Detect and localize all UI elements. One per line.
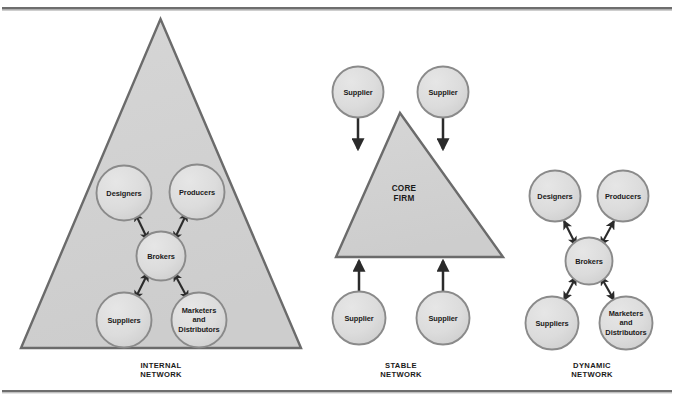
stable-core-firm-label: CORE FIRM — [392, 184, 417, 203]
node-dynamic-brokers-label: Brokers — [575, 257, 603, 266]
node-internal-brokers-label: Brokers — [147, 252, 175, 261]
node-dynamic-suppliers[interactable]: Suppliers — [526, 297, 579, 350]
stable-connections-bottom — [359, 261, 443, 291]
core-firm-label-line1: CORE — [392, 184, 417, 193]
bottom-divider — [2, 390, 672, 393]
panel-dynamic-network: Designers Producers Brokers Suppliers Ma… — [526, 171, 653, 380]
caption-internal-line2: NETWORK — [140, 370, 182, 379]
panel-stable-network: CORE FIRM Supplier Supplier Supplier — [333, 67, 504, 380]
node-stable-supplier-top-right[interactable]: Supplier — [418, 67, 469, 118]
node-internal-marketers-distributors[interactable]: Marketers and Distributors — [172, 293, 227, 348]
node-internal-designers-label: Designers — [106, 189, 141, 198]
node-stable-supplier-bottom-right[interactable]: Supplier — [417, 292, 470, 345]
node-internal-marketers-label-line3: Distributors — [178, 325, 219, 334]
internal-network-triangle — [21, 19, 301, 348]
node-internal-brokers[interactable]: Brokers — [137, 232, 186, 281]
node-dynamic-suppliers-label: Suppliers — [535, 319, 568, 328]
caption-stable-network: STABLE NETWORK — [380, 361, 422, 379]
node-dynamic-producers[interactable]: Producers — [598, 171, 649, 222]
node-dynamic-marketers-label-line1: Marketers — [609, 309, 643, 318]
node-dynamic-marketers-label-line3: Distributors — [605, 328, 646, 337]
node-stable-supplier-top-right-label: Supplier — [428, 88, 457, 97]
node-stable-supplier-top-left-label: Supplier — [343, 88, 372, 97]
node-internal-producers-label: Producers — [179, 188, 215, 197]
caption-internal-line1: INTERNAL — [140, 361, 181, 370]
node-internal-producers[interactable]: Producers — [170, 165, 225, 220]
node-dynamic-brokers[interactable]: Brokers — [566, 238, 613, 285]
node-internal-suppliers-label: Suppliers — [107, 316, 140, 325]
node-stable-supplier-top-left[interactable]: Supplier — [333, 67, 384, 118]
node-dynamic-designers-label: Designers — [537, 192, 572, 201]
node-internal-marketers-label-line2: and — [193, 315, 207, 324]
node-dynamic-designers[interactable]: Designers — [530, 171, 581, 222]
core-firm-label-line2: FIRM — [393, 194, 414, 203]
stable-network-core-firm-triangle — [336, 113, 503, 257]
caption-internal-network: INTERNAL NETWORK — [140, 361, 182, 379]
network-forms-diagram: Designers Producers Brokers Suppliers Ma… — [0, 0, 680, 407]
node-internal-marketers-label-line1: Marketers — [182, 306, 216, 315]
caption-stable-line1: STABLE — [385, 361, 417, 370]
node-internal-designers[interactable]: Designers — [97, 166, 152, 221]
node-stable-supplier-bottom-left[interactable]: Supplier — [333, 292, 386, 345]
node-stable-supplier-bottom-right-label: Supplier — [428, 314, 457, 323]
node-dynamic-marketers-distributors[interactable]: Marketers and Distributors — [600, 297, 653, 350]
panel-internal-network: Designers Producers Brokers Suppliers Ma… — [21, 19, 301, 379]
caption-dynamic-line2: NETWORK — [571, 370, 613, 379]
node-dynamic-marketers-label-line2: and — [620, 318, 634, 327]
connector-brokers-designers — [564, 221, 576, 245]
caption-stable-line2: NETWORK — [380, 370, 422, 379]
caption-dynamic-network: DYNAMIC NETWORK — [571, 361, 613, 379]
node-stable-supplier-bottom-left-label: Supplier — [344, 314, 373, 323]
caption-dynamic-line1: DYNAMIC — [573, 361, 611, 370]
node-internal-suppliers[interactable]: Suppliers — [97, 293, 152, 348]
figure-canvas: Designers Producers Brokers Suppliers Ma… — [0, 0, 680, 407]
node-dynamic-producers-label: Producers — [605, 192, 641, 201]
top-divider — [2, 7, 672, 11]
